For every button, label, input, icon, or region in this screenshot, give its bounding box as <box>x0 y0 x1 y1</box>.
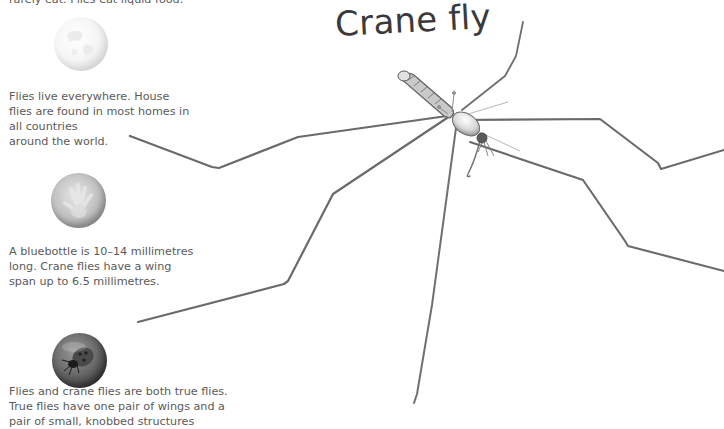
legs <box>130 22 724 403</box>
globe-continents-shape <box>54 17 108 71</box>
page-title: Crane fly <box>334 0 492 44</box>
leg-down <box>414 128 456 403</box>
crane-fly-body <box>398 71 494 156</box>
paragraph-size: A bluebottle is 10–14 millimetres long. … <box>9 244 193 289</box>
globe-icon <box>54 17 108 71</box>
paragraph-classification: Flies and crane flies are both true flie… <box>9 384 228 429</box>
leg-curl <box>467 140 480 177</box>
hand-print-shape <box>51 173 106 228</box>
hand-icon <box>51 173 106 228</box>
wings <box>455 102 520 151</box>
leg-right-lower <box>470 142 724 271</box>
head <box>477 133 487 143</box>
leg-right-upper <box>460 119 724 169</box>
thorax <box>448 107 484 141</box>
paragraph-diet: rarely eat. Flies eat liquid food. <box>9 0 183 7</box>
paragraph-habitat: Flies live everywhere. House flies are f… <box>9 89 189 149</box>
ladybird-shape <box>52 333 107 388</box>
ladybird-icon <box>52 333 107 388</box>
abdomen <box>400 73 454 118</box>
